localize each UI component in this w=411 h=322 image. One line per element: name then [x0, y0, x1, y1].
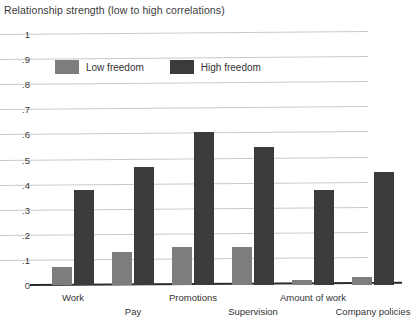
bar	[172, 247, 192, 285]
y-axis-tick-label: .2	[4, 229, 30, 240]
bar	[134, 167, 154, 285]
legend-label-high-freedom: High freedom	[201, 62, 261, 73]
x-axis-tick-label: Promotions	[169, 292, 217, 303]
y-axis-tick-label: .8	[4, 79, 30, 90]
y-axis: 1.9.8.7.6.5.4.3.2.10	[0, 34, 30, 285]
y-axis-tick-label: 1	[4, 29, 30, 40]
y-axis-tick-label: 0	[4, 280, 30, 291]
bar	[314, 190, 334, 285]
legend-swatch-high-freedom	[170, 60, 194, 74]
y-axis-tick-label: .1	[4, 254, 30, 265]
bar	[374, 172, 394, 285]
chart-legend: Low freedom High freedom	[55, 60, 261, 74]
x-axis-tick-label: Amount of work	[280, 292, 346, 303]
y-axis-tick-label: .6	[4, 129, 30, 140]
x-axis-tick-label: Supervision	[228, 306, 278, 317]
bar-group	[292, 34, 334, 285]
legend-swatch-low-freedom	[55, 60, 79, 74]
bar	[74, 190, 94, 285]
bar	[292, 280, 312, 285]
x-axis-tick-label: Company policies	[336, 306, 411, 317]
x-axis-tick-label: Work	[62, 292, 84, 303]
chart-title: Relationship strength (low to high corre…	[4, 4, 225, 16]
legend-label-low-freedom: Low freedom	[86, 62, 144, 73]
bar	[232, 247, 252, 285]
y-axis-tick-label: .5	[4, 154, 30, 165]
y-axis-tick-label: .7	[4, 104, 30, 115]
y-axis-tick-label: .9	[4, 54, 30, 65]
legend-item-low-freedom: Low freedom	[55, 60, 144, 74]
bar-group	[352, 34, 394, 285]
bar	[254, 147, 274, 285]
x-axis-tick-label: Pay	[125, 306, 141, 317]
bar	[194, 132, 214, 285]
y-axis-tick-label: .3	[4, 204, 30, 215]
legend-item-high-freedom: High freedom	[170, 60, 261, 74]
bar	[352, 277, 372, 285]
y-axis-tick-label: .4	[4, 179, 30, 190]
bar	[52, 267, 72, 285]
bar	[112, 252, 132, 285]
